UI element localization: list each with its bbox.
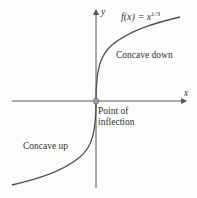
function-label: f(x) = x1/3 [121, 9, 160, 22]
concave-up-label: Concave up [23, 141, 68, 151]
diagram-canvas [0, 0, 197, 198]
point-of-inflection-label-line2: inflection [98, 117, 134, 127]
point-of-inflection-label-line1: Point of [98, 106, 128, 116]
y-axis-label: y [101, 7, 105, 17]
concave-down-label: Concave down [116, 50, 173, 60]
function-label-base: f(x) = x [121, 11, 151, 22]
x-axis-label: x [184, 88, 188, 98]
concavity-diagram: y x f(x) = x1/3 Concave down Concave up … [0, 0, 197, 198]
inflection-point-marker [93, 98, 99, 104]
function-label-exponent: 1/3 [151, 10, 160, 18]
